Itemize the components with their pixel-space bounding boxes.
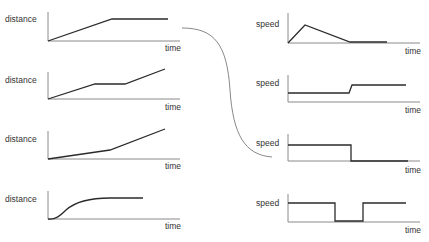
y-axis-label: distance <box>5 14 37 24</box>
axes <box>48 191 180 219</box>
plot-line <box>288 25 387 43</box>
speed-graph-2: speed time <box>256 75 421 115</box>
axes <box>288 194 420 222</box>
axes <box>48 12 180 41</box>
y-axis-label: speed <box>256 138 279 148</box>
axes <box>288 75 420 102</box>
distance-graph-2: distance time <box>5 69 181 112</box>
speed-graph-1: speed time <box>256 13 421 56</box>
axes <box>288 13 420 43</box>
speed-graph-4: speed time <box>256 194 421 235</box>
axes <box>288 134 420 161</box>
y-axis-label: distance <box>5 75 37 85</box>
y-axis-label: distance <box>5 194 37 204</box>
x-axis-label: time <box>165 221 181 231</box>
x-axis-label: time <box>405 225 421 235</box>
distance-graph-3: distance time <box>5 129 181 171</box>
plot-line <box>288 203 406 221</box>
x-axis-label: time <box>405 165 421 175</box>
y-axis-label: speed <box>256 78 279 88</box>
x-axis-label: time <box>405 105 421 115</box>
x-axis-label: time <box>165 102 181 112</box>
x-axis-label: time <box>165 43 181 53</box>
plot-line <box>288 145 408 161</box>
plot-line <box>48 69 165 99</box>
plot-curve <box>48 198 143 219</box>
diagram-canvas: distance time distance time distance tim… <box>0 0 429 242</box>
x-axis-label: time <box>165 161 181 171</box>
plot-line <box>288 85 406 93</box>
distance-graph-4: distance time <box>5 191 181 231</box>
plot-line <box>48 19 168 41</box>
speed-graph-3: speed time <box>256 134 421 175</box>
y-axis-label: speed <box>256 19 279 29</box>
axes <box>48 72 180 99</box>
y-axis-label: speed <box>256 198 279 208</box>
axes <box>48 131 180 159</box>
distance-graph-1: distance time <box>5 12 181 53</box>
y-axis-label: distance <box>5 134 37 144</box>
x-axis-label: time <box>405 46 421 56</box>
plot-line <box>48 129 165 159</box>
